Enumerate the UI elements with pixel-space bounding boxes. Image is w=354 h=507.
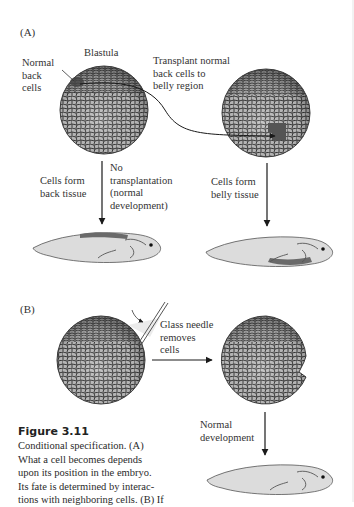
no-transplantation-label: No transplantation (normal development) xyxy=(110,162,172,212)
caption-line: tions with neighboring cells. (B) If xyxy=(18,493,164,507)
blastula-cells-removed xyxy=(220,314,312,406)
transplanted-cells-patch xyxy=(268,123,286,132)
caption-line: What a cell becomes depends xyxy=(18,453,164,467)
transplant-label: Transplant normal back cells to belly re… xyxy=(153,55,230,93)
tadpole-normal xyxy=(207,465,333,495)
normal-development-label: Normal development xyxy=(200,419,254,444)
figure-number: Figure 3.11 xyxy=(18,425,89,438)
cells-form-belly-tissue-label: Cells form belly tissue xyxy=(211,176,259,201)
figure-caption: Conditional specification. (A) What a ce… xyxy=(18,439,164,507)
blastula-with-needle xyxy=(55,314,160,406)
needle-motion-arrow xyxy=(132,310,143,322)
normal-back-cells-label: Normal back cells xyxy=(22,57,54,95)
tadpole-back-tissue xyxy=(33,232,161,262)
cells-form-back-tissue-label: Cells form back tissue xyxy=(40,175,86,200)
caption-line: Its fate is determined by interac- xyxy=(18,480,164,494)
caption-line: Conditional specification. (A) xyxy=(18,439,164,453)
tadpole-belly-tissue xyxy=(206,237,333,267)
back-cells-patch xyxy=(70,77,84,87)
blastula-left xyxy=(58,64,150,156)
blastula-right xyxy=(220,67,312,159)
caption-line: upon its position in the embryo. xyxy=(18,466,164,480)
blastula-label: Blastula xyxy=(84,47,118,60)
glass-needle-label: Glass needle removes cells xyxy=(160,319,213,357)
